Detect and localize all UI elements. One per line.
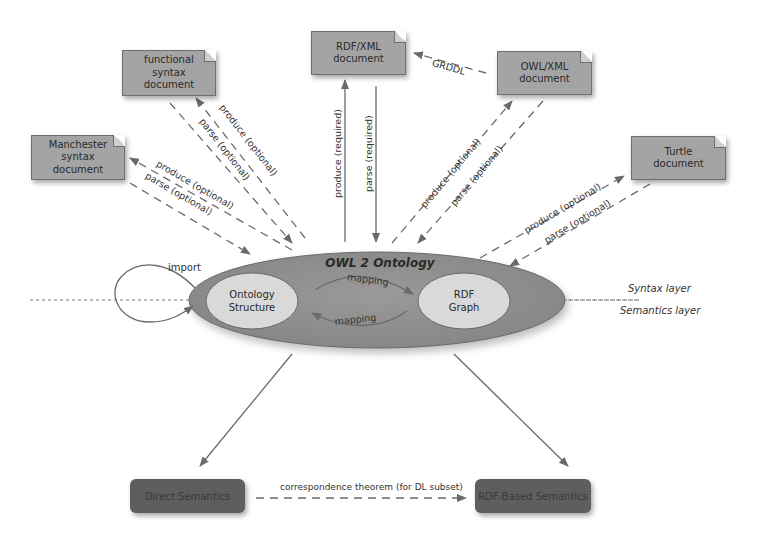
rdfxml-produce-label: produce (required) bbox=[332, 109, 343, 198]
ontology-structure-label: Ontology Structure bbox=[206, 289, 298, 314]
direct-semantics-box: Direct Semantics bbox=[130, 479, 245, 513]
rdf-xml-document: RDF/XML document bbox=[311, 31, 406, 75]
direct-semantics-label: Direct Semantics bbox=[145, 491, 230, 502]
owl-xml-document: OWL/XML document bbox=[497, 51, 592, 95]
rdfxml-parse-label: parse (required) bbox=[363, 115, 374, 192]
manchester-syntax-document: Manchester syntax document bbox=[31, 135, 125, 180]
document-label: Turtle document bbox=[653, 146, 703, 171]
rdf-based-semantics-box: RDF-Based Semantics bbox=[475, 479, 591, 513]
import-loop bbox=[115, 265, 195, 322]
semantics-layer-label: Semantics layer bbox=[620, 305, 700, 316]
diagram-connectors bbox=[0, 0, 758, 546]
owl2-structure-diagram: functional syntax document Manchester sy… bbox=[0, 0, 758, 546]
document-label: OWL/XML document bbox=[519, 61, 569, 86]
turtle-document: Turtle document bbox=[631, 136, 726, 180]
document-label: Manchester syntax document bbox=[49, 139, 107, 177]
page-fold-icon bbox=[580, 51, 592, 63]
page-fold-icon bbox=[714, 136, 726, 148]
correspondence-label: correspondence theorem (for DL subset) bbox=[280, 482, 463, 492]
rdf-based-semantics-label: RDF-Based Semantics bbox=[478, 491, 588, 502]
document-label: RDF/XML document bbox=[333, 41, 383, 66]
owl2-ontology-title: OWL 2 Ontology bbox=[300, 256, 460, 270]
document-label: functional syntax document bbox=[144, 54, 194, 92]
page-fold-icon bbox=[394, 31, 406, 43]
to-direct-semantics-arrow bbox=[200, 354, 292, 466]
page-fold-icon bbox=[113, 135, 125, 147]
rdf-graph-label: RDF Graph bbox=[418, 289, 510, 314]
functional-syntax-document: functional syntax document bbox=[122, 50, 216, 96]
to-rdf-based-semantics-arrow bbox=[454, 354, 568, 466]
page-fold-icon bbox=[204, 50, 216, 62]
import-label: import bbox=[168, 262, 201, 273]
syntax-layer-label: Syntax layer bbox=[628, 283, 691, 294]
